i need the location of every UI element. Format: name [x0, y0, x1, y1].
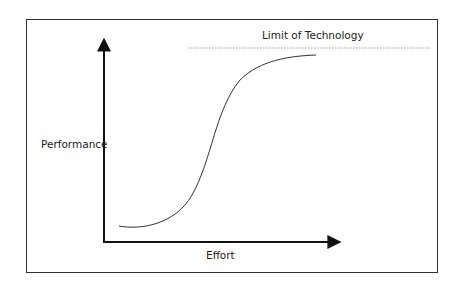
s-curve [119, 55, 316, 227]
x-axis-label: Effort [206, 249, 235, 261]
limit-of-technology-label: Limit of Technology [262, 29, 364, 41]
y-axis-label: Performance [41, 138, 108, 150]
